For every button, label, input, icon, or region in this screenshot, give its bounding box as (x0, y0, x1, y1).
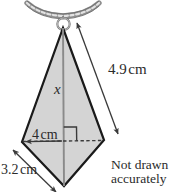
vertical-diagonal-line (63, 28, 64, 186)
label-slant-unit: cm (20, 162, 37, 177)
label-half-diagonal: 4cm (32, 128, 58, 143)
label-unknown-x: x (54, 82, 61, 98)
label-slant-length: 3.2cm (1, 163, 37, 178)
label-side-unit: cm (128, 61, 146, 77)
note-line-1: Not drawn (111, 158, 168, 172)
label-side-value: 4.9 (108, 61, 127, 77)
note-line-2: accurately (111, 172, 168, 186)
not-drawn-accurately-note: Not drawnaccurately (111, 158, 168, 186)
label-side-length: 4.9cm (108, 62, 147, 78)
label-slant-value: 3.2 (1, 162, 19, 177)
kite-diagram-figure: 4.9cm x 4cm 3.2cm Not drawnaccurately (0, 0, 186, 192)
label-half-diagonal-value: 4 (32, 127, 39, 142)
label-half-diagonal-unit: cm (41, 127, 58, 142)
